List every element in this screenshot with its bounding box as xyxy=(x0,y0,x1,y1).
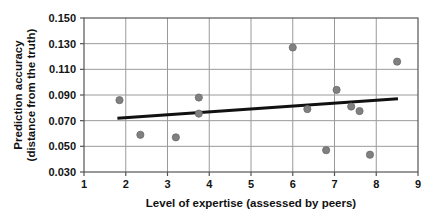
x-axis-tick-marks xyxy=(84,172,418,176)
data-point xyxy=(116,97,123,104)
y-tick-label: 0.110 xyxy=(49,63,76,75)
data-point xyxy=(323,147,330,154)
x-axis-title: Level of expertise (assessed by peers) xyxy=(146,197,356,209)
y-tick-label: 0.030 xyxy=(48,166,76,178)
data-point xyxy=(366,151,373,158)
y-axis-title-line1: Prediction accuracy xyxy=(12,40,24,150)
x-tick-label: 8 xyxy=(373,178,379,190)
x-tick-label: 9 xyxy=(415,178,421,190)
data-point xyxy=(289,44,296,51)
chart-canvas: 123456789 0.0300.0500.0700.0900.1100.130… xyxy=(0,0,436,218)
x-tick-label: 1 xyxy=(81,178,87,190)
data-point xyxy=(394,58,401,65)
x-tick-label: 3 xyxy=(164,178,170,190)
y-tick-label: 0.050 xyxy=(48,140,76,152)
y-tick-label: 0.090 xyxy=(48,89,76,101)
data-point xyxy=(195,94,202,101)
data-point xyxy=(172,134,179,141)
x-tick-label: 6 xyxy=(290,178,296,190)
y-axis-title-line2: (distance from the truth) xyxy=(25,28,37,161)
x-tick-label: 4 xyxy=(206,178,213,190)
x-axis-tick-labels: 123456789 xyxy=(81,178,421,190)
x-tick-label: 2 xyxy=(123,178,129,190)
data-point xyxy=(333,86,340,93)
y-tick-label: 0.130 xyxy=(48,38,76,50)
data-point xyxy=(137,131,144,138)
y-tick-label: 0.150 xyxy=(48,12,76,24)
data-point xyxy=(348,103,355,110)
y-tick-label: 0.070 xyxy=(48,115,76,127)
x-tick-label: 5 xyxy=(248,178,254,190)
data-point xyxy=(195,110,202,117)
y-axis-tick-labels: 0.0300.0500.0700.0900.1100.1300.150 xyxy=(48,12,76,178)
x-tick-label: 7 xyxy=(331,178,337,190)
scatter-plot-figure: 123456789 0.0300.0500.0700.0900.1100.130… xyxy=(0,0,436,218)
data-point xyxy=(356,107,363,114)
data-point xyxy=(304,106,311,113)
